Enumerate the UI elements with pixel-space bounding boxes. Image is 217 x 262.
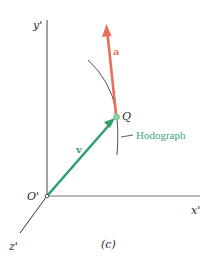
acceleration-arrowhead-icon [102, 24, 112, 37]
figure-caption: (c) [101, 239, 116, 250]
hodograph-figure: y' x' z' O' Q a v Hodograph (c) [0, 0, 217, 262]
velocity-label: v [76, 145, 82, 155]
y-axis-label: y' [33, 20, 42, 31]
origin-marker [45, 194, 49, 198]
hodograph-leader-line [121, 135, 133, 137]
point-q-marker [114, 114, 120, 120]
x-axis-label: x' [191, 205, 200, 216]
acceleration-label: a [113, 47, 119, 57]
z-axis-label: z' [9, 241, 18, 252]
origin-label: O' [27, 191, 39, 202]
velocity-arrowhead-icon [104, 118, 115, 128]
point-q-label: Q [122, 111, 131, 122]
hodograph-curve [88, 60, 118, 155]
hodograph-label: Hodograph [136, 130, 186, 141]
velocity-vector [47, 124, 110, 196]
